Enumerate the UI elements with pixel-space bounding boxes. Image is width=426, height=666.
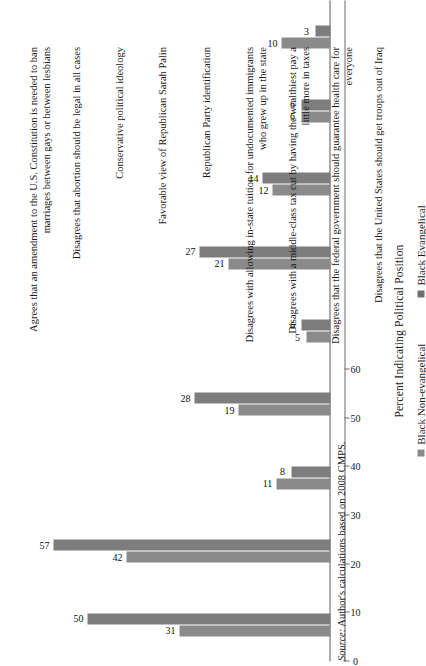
bar-group: 1928 <box>38 367 330 440</box>
value-axis: 0102030405060 <box>344 369 386 661</box>
bar <box>301 319 330 330</box>
legend-swatch-icon <box>417 290 424 297</box>
bar-group: 66 <box>38 73 330 146</box>
bar <box>179 625 330 636</box>
bar <box>315 25 330 36</box>
value-axis-tick-label: 10 <box>350 607 360 617</box>
bar-value-label: 42 <box>112 552 122 562</box>
value-axis-tick-label: 40 <box>350 461 360 471</box>
bar-value-label: 3 <box>304 26 309 36</box>
value-axis-tick <box>344 417 349 418</box>
value-axis-tick-label: 30 <box>350 510 360 520</box>
bar-value-label: 19 <box>224 405 234 415</box>
bar-group: 1214 <box>38 147 330 220</box>
bar <box>306 331 330 342</box>
bar-value-label: 6 <box>289 99 294 109</box>
bar-group: 4257 <box>38 514 330 587</box>
bar <box>301 111 330 122</box>
bar-value-label: 5 <box>294 332 299 342</box>
bar <box>238 404 330 415</box>
bar <box>276 478 330 489</box>
legend-swatch-icon <box>417 449 424 456</box>
bar-value-label: 21 <box>214 258 224 268</box>
bar-group: 56 <box>38 294 330 367</box>
source-prefix: Source: <box>336 629 347 661</box>
value-axis-tick-label: 0 <box>353 656 358 666</box>
bar <box>301 99 330 110</box>
bar <box>194 392 330 403</box>
bar-value-label: 12 <box>258 185 268 195</box>
chart-legend: Black Non-evangelical Black Evangelical <box>414 0 426 661</box>
bar-value-label: 31 <box>165 625 175 635</box>
bar-value-label: 28 <box>180 393 190 403</box>
source-note: Source: Author's calculations based on 2… <box>336 451 347 661</box>
bar-value-label: 57 <box>39 540 49 550</box>
bar-value-label: 6 <box>289 320 294 330</box>
bar-group: 103 <box>38 0 330 73</box>
value-axis-tick-label: 50 <box>350 413 360 423</box>
bar <box>126 551 330 562</box>
bar <box>87 613 330 624</box>
bar-value-label: 8 <box>280 466 285 476</box>
bar-value-label: 50 <box>73 613 83 623</box>
legend-label: Black Non-evangelical <box>414 343 426 444</box>
legend-item-black-non-evangelical: Black Non-evangelical <box>414 343 426 456</box>
bar <box>228 258 330 269</box>
bar-value-label: 11 <box>263 478 273 488</box>
bar <box>199 246 330 257</box>
bar-value-label: 27 <box>185 246 195 256</box>
bar <box>281 37 330 48</box>
source-text: Author's calculations based on 2008 CMPS… <box>336 442 347 629</box>
value-axis-tick <box>344 368 349 369</box>
plot-area: 315042571181928562127121466103 <box>38 0 330 661</box>
bar-group: 3150 <box>38 588 330 661</box>
bar-group: 2127 <box>38 220 330 293</box>
x-axis-title: Percent Indicating Political Position <box>392 0 404 661</box>
bar <box>262 172 330 183</box>
value-axis-tick-label: 20 <box>350 559 360 569</box>
bar <box>291 466 330 477</box>
legend-item-black-evangelical: Black Evangelical <box>414 205 426 297</box>
value-axis-tick-label: 60 <box>350 364 360 374</box>
bar <box>272 184 330 195</box>
bar-value-label: 6 <box>289 111 294 121</box>
bar-value-label: 14 <box>248 173 258 183</box>
bar-group: 118 <box>38 441 330 514</box>
legend-label: Black Evangelical <box>414 205 426 285</box>
bar <box>53 539 330 550</box>
bar-value-label: 10 <box>267 38 277 48</box>
